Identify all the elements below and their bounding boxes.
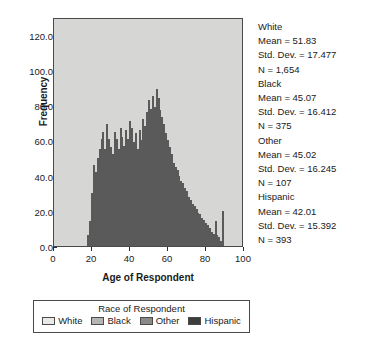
legend-label: White bbox=[58, 315, 82, 326]
legend-item-other[interactable]: Other bbox=[140, 315, 180, 326]
legend-items: WhiteBlackOtherHispanic bbox=[34, 315, 249, 326]
y-tick-label: 20.0 bbox=[19, 206, 53, 217]
y-tick-label: 80.0 bbox=[19, 101, 53, 112]
legend-item-black[interactable]: Black bbox=[91, 315, 130, 326]
group-name: Hispanic bbox=[258, 190, 386, 204]
x-tick-mark bbox=[129, 247, 130, 251]
x-tick-label: 80 bbox=[200, 253, 211, 264]
y-tick-label: 0.0 bbox=[19, 242, 53, 253]
stat-std-dev: Std. Dev. = 16.412 bbox=[258, 105, 386, 119]
stat-n: N = 1,654 bbox=[258, 63, 386, 77]
legend-label: Other bbox=[156, 315, 180, 326]
stat-group-white: WhiteMean = 51.83Std. Dev. = 17.477N = 1… bbox=[258, 20, 386, 77]
bar-segment-hispanic bbox=[222, 242, 224, 246]
stat-group-hispanic: HispanicMean = 42.01Std. Dev. = 15.392N … bbox=[258, 190, 386, 247]
y-axis: 0.020.040.060.080.0100.0120.0 bbox=[11, 0, 53, 351]
stat-mean: Mean = 42.01 bbox=[258, 205, 386, 219]
x-tick-label: 0 bbox=[50, 253, 55, 264]
x-tick-mark bbox=[91, 247, 92, 251]
stat-group-other: OtherMean = 45.02Std. Dev. = 16.245N = 1… bbox=[258, 134, 386, 191]
legend-swatch-hispanic bbox=[188, 317, 201, 325]
plot-area bbox=[53, 18, 243, 247]
group-name: White bbox=[258, 20, 386, 34]
legend-swatch-white bbox=[42, 317, 55, 325]
y-tick-label: 60.0 bbox=[19, 136, 53, 147]
stat-group-black: BlackMean = 45.07Std. Dev. = 16.412N = 3… bbox=[258, 77, 386, 134]
legend-swatch-black bbox=[91, 317, 104, 325]
y-tick-label: 40.0 bbox=[19, 171, 53, 182]
x-tick-mark bbox=[167, 247, 168, 251]
x-tick-label: 60 bbox=[162, 253, 173, 264]
legend-label: Hispanic bbox=[204, 315, 240, 326]
y-tick-label: 120.0 bbox=[19, 30, 53, 41]
histogram-bar bbox=[222, 211, 224, 246]
stat-std-dev: Std. Dev. = 16.245 bbox=[258, 162, 386, 176]
legend: Race of Respondent WhiteBlackOtherHispan… bbox=[33, 300, 250, 333]
legend-title: Race of Respondent bbox=[34, 303, 249, 314]
group-name: Black bbox=[258, 77, 386, 91]
stat-n: N = 107 bbox=[258, 176, 386, 190]
stat-n: N = 375 bbox=[258, 119, 386, 133]
statistics-panel: WhiteMean = 51.83Std. Dev. = 17.477N = 1… bbox=[258, 20, 386, 247]
x-tick-mark bbox=[205, 247, 206, 251]
x-tick-mark bbox=[243, 247, 244, 251]
stat-std-dev: Std. Dev. = 17.477 bbox=[258, 48, 386, 62]
bars-layer bbox=[54, 19, 242, 246]
stat-n: N = 393 bbox=[258, 233, 386, 247]
y-tick-label: 100.0 bbox=[19, 65, 53, 76]
stat-mean: Mean = 51.83 bbox=[258, 34, 386, 48]
legend-swatch-other bbox=[140, 317, 153, 325]
legend-label: Black bbox=[107, 315, 130, 326]
legend-item-white[interactable]: White bbox=[42, 315, 82, 326]
stat-std-dev: Std. Dev. = 15.392 bbox=[258, 219, 386, 233]
x-axis: 020406080100 bbox=[53, 247, 243, 273]
group-name: Other bbox=[258, 134, 386, 148]
x-tick-label: 100 bbox=[235, 253, 251, 264]
x-axis-title: Age of Respondent bbox=[53, 272, 243, 283]
bar-segment-white bbox=[222, 211, 224, 236]
stat-mean: Mean = 45.02 bbox=[258, 148, 386, 162]
x-tick-mark bbox=[53, 247, 54, 251]
x-tick-label: 40 bbox=[124, 253, 135, 264]
legend-item-hispanic[interactable]: Hispanic bbox=[188, 315, 240, 326]
stat-mean: Mean = 45.07 bbox=[258, 91, 386, 105]
x-tick-label: 20 bbox=[86, 253, 97, 264]
histogram-figure: Frequency 0.020.040.060.080.0100.0120.0 … bbox=[0, 0, 389, 351]
